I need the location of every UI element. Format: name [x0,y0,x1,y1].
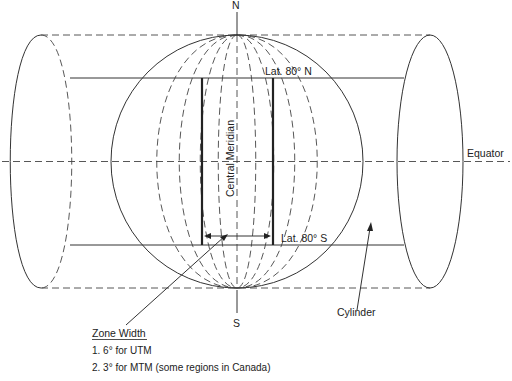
cylinder-leader [357,222,373,310]
north-pole-label: N [232,0,240,11]
cylinder-label: Cylinder [337,306,376,318]
zone-width-heading: Zone Width [92,327,146,339]
lat-80s-label: Lat. 80° S [281,232,327,244]
zone-width-item-2: 2. 3° for MTM (some regions in Canada) [92,362,271,373]
zone-width-item-1: 1. 6° for UTM [92,345,152,356]
central-meridian-label: Central Meridian [224,120,236,197]
lat-80n-label: Lat. 80° N [265,65,312,77]
south-pole-label: S [233,317,240,329]
transverse-mercator-diagram: N S Lat. 80° N Lat. 80° S Central Meridi… [0,0,512,381]
equator-label: Equator [467,147,504,159]
zone-width-legend: Zone Width 1. 6° for UTM 2. 3° for MTM (… [92,327,271,373]
zone-width-leader [126,234,228,325]
zone-width-arrow [204,233,271,239]
